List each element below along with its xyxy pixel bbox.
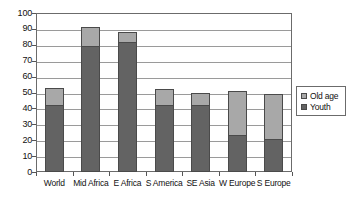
y-axis-tick-label: 40	[4, 104, 32, 113]
bar-segment-youth	[264, 139, 283, 172]
bar-segment-youth	[191, 105, 210, 172]
bar-segment-youth	[118, 42, 137, 172]
stacked-bar	[264, 94, 283, 172]
bar-segment-old-age	[45, 88, 64, 105]
legend-label-youth: Youth	[310, 102, 330, 112]
legend-item-old-age: Old age	[301, 90, 342, 101]
legend-item-youth: Youth	[301, 101, 342, 112]
legend-swatch-old-age-icon	[301, 93, 307, 99]
x-axis-tick-mark	[255, 172, 256, 176]
y-axis-tick-label: 90	[4, 24, 32, 33]
bar-segment-youth	[45, 105, 64, 172]
bar-segment-old-age	[155, 89, 174, 105]
bar-segment-youth	[81, 46, 100, 172]
y-axis-tick-label: 50	[4, 88, 32, 97]
chart-legend: Old age Youth	[296, 86, 346, 116]
stacked-bar	[191, 93, 210, 172]
x-axis-tick-label: S Europe	[255, 178, 292, 188]
stacked-bar	[45, 88, 64, 172]
x-axis-tick-mark	[292, 172, 293, 176]
y-axis-tick-label: 80	[4, 40, 32, 49]
bar-series-group	[36, 13, 292, 172]
bar-group	[118, 13, 137, 172]
x-axis-tick-mark	[182, 172, 183, 176]
bar-segment-old-age	[81, 27, 100, 46]
bar-segment-youth	[228, 135, 247, 172]
bar-group	[191, 13, 210, 172]
stacked-bar	[81, 27, 100, 172]
x-axis-tick-mark	[73, 172, 74, 176]
bar-segment-old-age	[191, 93, 210, 106]
x-axis-tick-label: W Europe	[219, 178, 256, 188]
bar-segment-old-age	[228, 91, 247, 136]
legend-swatch-youth-icon	[301, 104, 307, 110]
x-axis-tick-mark	[146, 172, 147, 176]
y-axis-tick-label: 10	[4, 152, 32, 161]
y-axis-tick-label: 0	[4, 168, 32, 177]
stacked-bar	[155, 89, 174, 172]
bar-group	[155, 13, 174, 172]
x-axis-tick-mark	[36, 172, 37, 176]
x-axis-tick-mark	[109, 172, 110, 176]
bar-group	[45, 13, 64, 172]
dependency-ratio-stacked-bar-chart: 0102030405060708090100 WorldMid AfricaE …	[0, 0, 350, 215]
stacked-bar	[228, 91, 247, 172]
x-axis-tick-mark	[219, 172, 220, 176]
x-axis-tick-label: SE Asia	[182, 178, 219, 188]
bar-segment-youth	[155, 105, 174, 172]
x-axis-tick-label: E Africa	[109, 178, 146, 188]
y-axis-tick-label: 30	[4, 120, 32, 129]
y-axis-tick-label: 100	[4, 9, 32, 18]
x-axis-tick-label: World	[36, 178, 73, 188]
legend-label-old-age: Old age	[310, 91, 338, 101]
bar-group	[228, 13, 247, 172]
bar-group	[264, 13, 283, 172]
x-axis-tick-label: Mid Africa	[73, 178, 110, 188]
y-axis-tick-label: 20	[4, 136, 32, 145]
y-axis-tick-label: 70	[4, 56, 32, 65]
y-axis-tick-label: 60	[4, 72, 32, 81]
stacked-bar	[118, 32, 137, 172]
x-axis-tick-label: S America	[146, 178, 183, 188]
bar-segment-old-age	[264, 94, 283, 139]
bar-segment-old-age	[118, 32, 137, 42]
bar-group	[81, 13, 100, 172]
